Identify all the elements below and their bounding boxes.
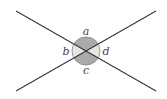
label-a: a bbox=[83, 25, 90, 38]
vertical-angles-diagram: a b c d bbox=[0, 0, 167, 99]
label-c: c bbox=[83, 64, 89, 77]
label-b: b bbox=[62, 45, 69, 58]
label-d: d bbox=[102, 45, 109, 58]
